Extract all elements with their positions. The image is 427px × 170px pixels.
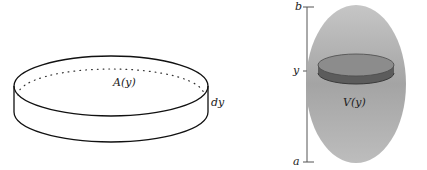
- solid-body: [306, 5, 406, 163]
- axis-label-middle: y: [293, 65, 299, 76]
- diagram-canvas: [0, 0, 427, 170]
- cylinder-slice: [14, 56, 208, 142]
- area-label: A(y): [113, 77, 136, 88]
- thickness-label: dy: [211, 97, 224, 108]
- volume-label: V(y): [343, 97, 366, 108]
- axis-label-bottom: a: [293, 156, 300, 167]
- axis-label-top: b: [295, 1, 302, 12]
